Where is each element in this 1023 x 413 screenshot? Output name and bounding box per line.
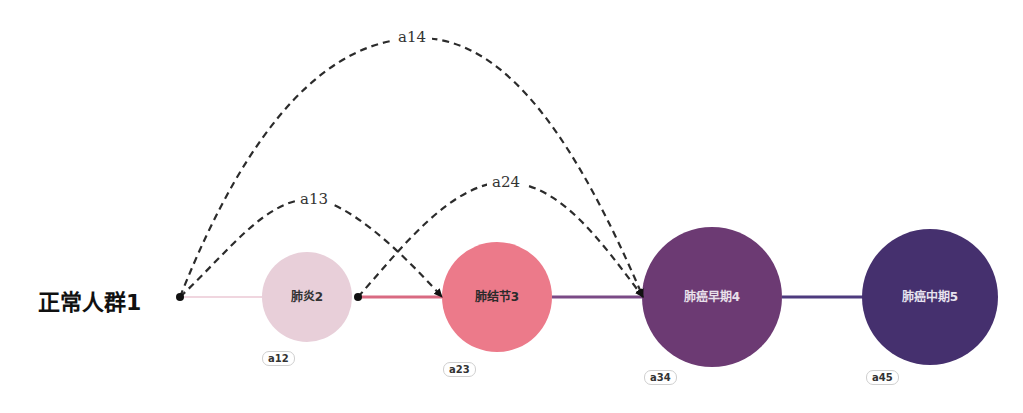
edge-tag-a12: a12 bbox=[262, 351, 295, 366]
edge-tag-a45: a45 bbox=[866, 370, 899, 385]
start-dot bbox=[176, 293, 184, 301]
node-nodule-label: 肺结节3 bbox=[475, 289, 519, 304]
arc-a14 bbox=[180, 38, 643, 297]
arc-a13-label: a13 bbox=[300, 190, 328, 208]
state-transition-diagram: 肺炎2 肺结节3 肺癌早期4 肺癌中期5 a14 a13 a24 bbox=[0, 0, 1023, 413]
node-early-cancer-label: 肺癌早期4 bbox=[684, 289, 740, 304]
edge-tag-a23: a23 bbox=[443, 362, 476, 377]
arc-a24-label: a24 bbox=[492, 173, 520, 191]
node-pneumonia-label: 肺炎2 bbox=[291, 289, 323, 304]
arc-a14-label: a14 bbox=[398, 28, 426, 46]
node-mid-cancer-label: 肺癌中期5 bbox=[902, 289, 958, 304]
pneumonia-out-dot bbox=[354, 293, 362, 301]
edge-tag-a34: a34 bbox=[644, 370, 677, 385]
